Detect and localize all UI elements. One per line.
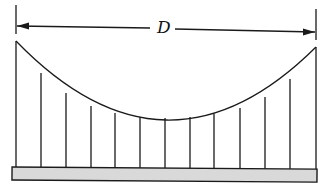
bridge-deck: [12, 167, 317, 182]
dimension-line-left: [17, 26, 150, 28]
cable-curve: [16, 41, 316, 120]
dimension-label: D: [154, 18, 174, 36]
dimension-line-right: [175, 29, 315, 32]
left-arrowhead: [17, 23, 29, 30]
right-arrowhead: [303, 29, 315, 36]
